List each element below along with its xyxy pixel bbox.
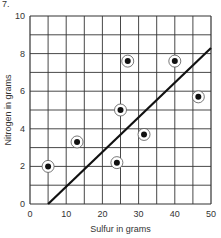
x-tick-label: 30 bbox=[134, 209, 144, 219]
y-tick-label: 8 bbox=[20, 49, 25, 59]
x-tick-label: 50 bbox=[206, 209, 216, 219]
data-point bbox=[114, 160, 120, 166]
x-tick-label: 40 bbox=[170, 209, 180, 219]
y-tick-label: 6 bbox=[20, 86, 25, 96]
data-point bbox=[141, 131, 147, 137]
fitted-line bbox=[48, 48, 211, 204]
scatter-chart: 7.010203040500246810Sulfur in gramsNitro… bbox=[0, 0, 221, 238]
x-axis-label: Sulfur in grams bbox=[90, 224, 151, 234]
y-axis-label: Nitrogen in grams bbox=[3, 74, 13, 146]
x-tick-label: 20 bbox=[97, 209, 107, 219]
data-point bbox=[172, 58, 178, 64]
data-point bbox=[45, 163, 51, 169]
figure-label: 7. bbox=[2, 0, 10, 9]
x-tick-label: 10 bbox=[61, 209, 71, 219]
y-tick-label: 2 bbox=[20, 161, 25, 171]
data-point bbox=[74, 139, 80, 145]
y-tick-label: 0 bbox=[20, 199, 25, 209]
data-point bbox=[195, 94, 201, 100]
y-tick-label: 4 bbox=[20, 124, 25, 134]
data-point bbox=[125, 58, 131, 64]
data-point bbox=[118, 107, 124, 113]
y-tick-label: 10 bbox=[15, 11, 25, 21]
x-tick-label: 0 bbox=[27, 209, 32, 219]
